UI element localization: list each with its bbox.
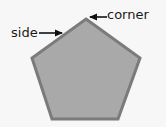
corner-label: corner (107, 8, 149, 21)
side-label: side (11, 26, 38, 39)
pentagon-shape (32, 19, 140, 119)
pentagon-diagram: side corner (0, 0, 166, 127)
